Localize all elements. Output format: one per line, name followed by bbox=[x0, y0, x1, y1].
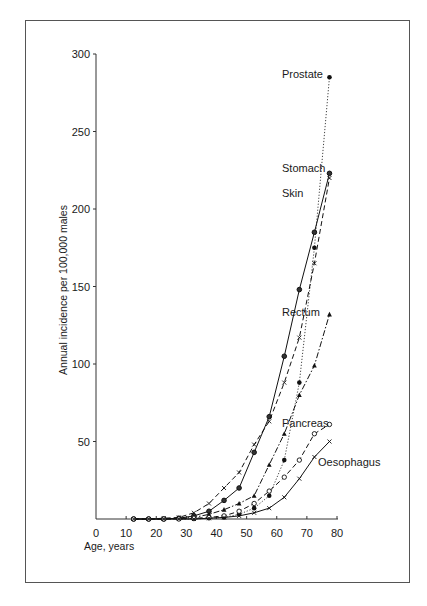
label-prostate: Prostate bbox=[282, 68, 323, 80]
series-stomach bbox=[131, 171, 331, 521]
x-tick-label: 80 bbox=[331, 527, 343, 539]
label-stomach: Stomach bbox=[282, 162, 325, 174]
y-tick-label: 200 bbox=[72, 203, 90, 215]
y-tick-label: 100 bbox=[72, 358, 90, 370]
label-skin: Skin bbox=[282, 187, 303, 199]
x-tick-label: 0 bbox=[93, 527, 99, 539]
axes: 5010015020025030001020304050607080 bbox=[72, 48, 343, 539]
series-skin bbox=[132, 176, 332, 521]
label-pancreas: Pancreas bbox=[282, 417, 329, 429]
x-tick-label: 70 bbox=[301, 527, 313, 539]
series-oesophagus bbox=[132, 440, 332, 522]
series-pancreas bbox=[131, 422, 331, 521]
label-oesophagus: Oesophagus bbox=[318, 456, 381, 468]
x-tick-label: 30 bbox=[180, 527, 192, 539]
series-prostate bbox=[131, 75, 331, 521]
label-rectum: Rectum bbox=[282, 306, 320, 318]
x-tick-label: 40 bbox=[210, 527, 222, 539]
x-axis-title: Age, years bbox=[84, 540, 134, 552]
data-lines bbox=[131, 75, 332, 521]
y-tick-label: 50 bbox=[78, 436, 90, 448]
x-tick-label: 60 bbox=[271, 527, 283, 539]
x-tick-label: 50 bbox=[241, 527, 253, 539]
x-tick-label: 20 bbox=[150, 527, 162, 539]
y-axis-title: Annual incidence per 100,000 males bbox=[57, 205, 69, 375]
y-tick-label: 300 bbox=[72, 48, 90, 60]
y-tick-label: 250 bbox=[72, 126, 90, 138]
y-tick-label: 150 bbox=[72, 281, 90, 293]
x-tick-label: 10 bbox=[120, 527, 132, 539]
incidence-line-chart: 5010015020025030001020304050607080 Prost… bbox=[0, 0, 427, 606]
